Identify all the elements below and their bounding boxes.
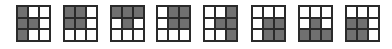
filled-cell — [18, 30, 27, 40]
empty-cell — [358, 7, 367, 17]
empty-cell — [40, 30, 49, 40]
empty-cell — [29, 30, 38, 40]
empty-cell — [300, 19, 309, 29]
empty-cell — [123, 30, 132, 40]
filled-cell — [358, 19, 367, 29]
empty-cell — [253, 30, 262, 40]
filled-cell — [134, 7, 143, 17]
empty-cell — [347, 7, 356, 17]
filled-cell — [227, 7, 236, 17]
filled-cell — [358, 30, 367, 40]
filled-cell — [169, 7, 178, 17]
empty-cell — [369, 7, 378, 17]
empty-cell — [253, 19, 262, 29]
empty-cell — [369, 30, 378, 40]
filled-cell — [123, 7, 132, 17]
filled-cell — [264, 30, 273, 40]
filled-cell — [65, 7, 74, 17]
empty-cell — [169, 30, 178, 40]
empty-cell — [253, 7, 262, 17]
filled-cell — [112, 7, 121, 17]
empty-cell — [216, 7, 225, 17]
filled-cell — [227, 30, 236, 40]
filled-cell — [347, 19, 356, 29]
empty-cell — [205, 19, 214, 29]
filled-cell — [169, 19, 178, 29]
filled-cell — [180, 7, 189, 17]
pattern-grid-5 — [203, 5, 238, 42]
empty-cell — [205, 30, 214, 40]
pattern-grid-2 — [63, 5, 98, 42]
empty-cell — [87, 30, 96, 40]
empty-cell — [264, 7, 273, 17]
empty-cell — [158, 7, 167, 17]
empty-cell — [40, 19, 49, 29]
empty-cell — [134, 19, 143, 29]
empty-cell — [322, 19, 331, 29]
filled-cell — [275, 19, 284, 29]
empty-cell — [216, 30, 225, 40]
filled-cell — [29, 19, 38, 29]
filled-cell — [18, 19, 27, 29]
empty-cell — [29, 7, 38, 17]
pattern-grid-4 — [156, 5, 191, 42]
filled-cell — [347, 30, 356, 40]
filled-cell — [300, 30, 309, 40]
empty-cell — [158, 19, 167, 29]
filled-cell — [275, 30, 284, 40]
empty-cell — [180, 30, 189, 40]
empty-cell — [158, 30, 167, 40]
empty-cell — [40, 7, 49, 17]
filled-cell — [216, 19, 225, 29]
empty-cell — [87, 7, 96, 17]
filled-cell — [76, 19, 85, 29]
pattern-grid-3 — [110, 5, 145, 42]
pattern-grid-1 — [16, 5, 51, 42]
empty-cell — [311, 7, 320, 17]
empty-cell — [112, 30, 121, 40]
filled-cell — [311, 30, 320, 40]
pattern-grid-8 — [345, 5, 380, 42]
filled-cell — [18, 7, 27, 17]
filled-cell — [311, 19, 320, 29]
filled-cell — [76, 7, 85, 17]
empty-cell — [300, 7, 309, 17]
filled-cell — [264, 19, 273, 29]
empty-cell — [322, 7, 331, 17]
filled-cell — [180, 19, 189, 29]
empty-cell — [112, 19, 121, 29]
empty-cell — [76, 30, 85, 40]
filled-cell — [227, 19, 236, 29]
filled-cell — [123, 19, 132, 29]
empty-cell — [275, 7, 284, 17]
empty-cell — [134, 30, 143, 40]
empty-cell — [205, 7, 214, 17]
pattern-grid-6 — [251, 5, 286, 42]
empty-cell — [369, 19, 378, 29]
filled-cell — [322, 30, 331, 40]
empty-cell — [87, 19, 96, 29]
pattern-grid-7 — [298, 5, 333, 42]
filled-cell — [65, 19, 74, 29]
empty-cell — [65, 30, 74, 40]
